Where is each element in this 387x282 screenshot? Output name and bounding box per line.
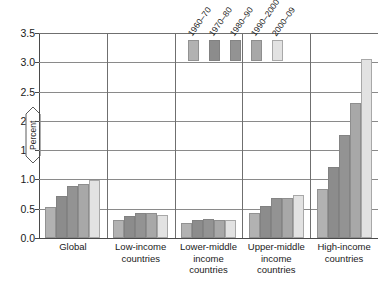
- bar: [260, 206, 271, 238]
- x-axis-line: [39, 238, 378, 239]
- bar-group: [107, 33, 175, 238]
- bar: [328, 167, 339, 238]
- chart-legend: 1960–701970–801980–901990–20002000–09: [188, 40, 298, 62]
- bar: [181, 223, 192, 238]
- legend-item: 1970–80: [209, 40, 220, 61]
- legend-swatch: [188, 40, 199, 61]
- y-axis-tick-label: 0.5: [9, 204, 35, 214]
- y-axis-tick-label: 3.0: [9, 57, 35, 67]
- bar: [317, 189, 328, 238]
- bar: [124, 216, 135, 238]
- x-axis-category-label: Global: [39, 241, 107, 282]
- y-axis-tick-mark: [35, 238, 39, 239]
- legend-swatch: [251, 40, 262, 61]
- bar: [146, 213, 157, 238]
- bar: [157, 215, 168, 238]
- bar-group: [242, 33, 310, 238]
- bar: [192, 220, 203, 238]
- y-axis-tick-label: 1.0: [9, 174, 35, 184]
- bar-group: [39, 33, 107, 238]
- y-axis-tick-label: 0.0: [9, 233, 35, 243]
- bar: [282, 198, 293, 238]
- bar: [339, 135, 350, 238]
- bar: [78, 184, 89, 238]
- bar-group: [175, 33, 243, 238]
- bar-chart: 3.53.02.52.01.51.00.50.0 Percent 1960–70…: [0, 0, 387, 282]
- legend-swatch: [272, 40, 283, 61]
- legend-swatch: [209, 40, 220, 61]
- bar: [89, 180, 100, 238]
- plot-area: [39, 33, 378, 238]
- legend-item: 1960–70: [188, 40, 199, 61]
- legend-item: 1990–2000: [251, 40, 262, 61]
- bar-group: [310, 33, 378, 238]
- bar: [56, 196, 67, 238]
- bar: [113, 220, 124, 238]
- x-axis-category-labels: GlobalLow-income countriesLower-middle i…: [39, 241, 378, 282]
- bar: [225, 220, 236, 238]
- x-axis-category-label: Low-income countries: [107, 241, 175, 282]
- bar: [271, 198, 282, 238]
- bar: [249, 213, 260, 238]
- legend-swatch: [230, 40, 241, 61]
- bar: [361, 59, 372, 238]
- bar: [203, 219, 214, 238]
- legend-item: 2000–09: [272, 40, 283, 61]
- x-axis-category-label: Upper-middle income countries: [242, 241, 310, 282]
- legend-item: 1980–90: [230, 40, 241, 61]
- y-axis-tick-label: 2.5: [9, 87, 35, 97]
- x-axis-category-label: Lower-middle income countries: [175, 241, 243, 282]
- bar: [350, 103, 361, 238]
- x-axis-category-label: High-income countries: [310, 241, 378, 282]
- bar: [214, 220, 225, 238]
- bar-groups: [39, 33, 378, 238]
- bar: [293, 195, 304, 238]
- bar: [45, 207, 56, 238]
- bar: [67, 186, 78, 238]
- bar: [135, 213, 146, 238]
- y-axis-tick-label: 3.5: [9, 28, 35, 38]
